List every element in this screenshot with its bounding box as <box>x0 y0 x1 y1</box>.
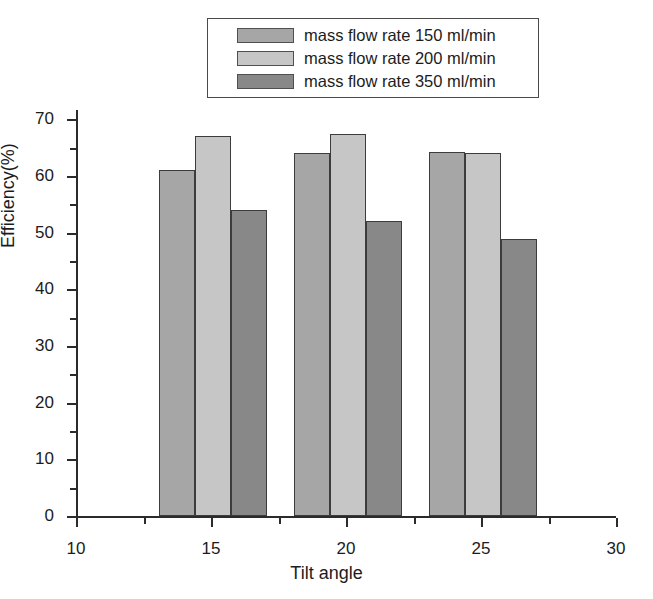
bar <box>159 170 195 516</box>
y-tick: 70 <box>67 119 76 121</box>
x-tick: 25 <box>481 518 483 527</box>
bar <box>195 136 231 516</box>
y-tick-minor <box>70 148 76 150</box>
bar <box>330 134 366 516</box>
bar <box>294 153 330 516</box>
legend-item: mass flow rate 350 ml/min <box>208 70 538 93</box>
y-tick-minor <box>70 488 76 490</box>
y-tick: 40 <box>67 289 76 291</box>
y-tick: 30 <box>67 346 76 348</box>
y-tick-label: 30 <box>35 336 54 356</box>
legend-swatch-icon <box>237 28 294 43</box>
y-tick: 60 <box>67 176 76 178</box>
y-tick-label: 50 <box>35 223 54 243</box>
x-tick-minor <box>549 518 551 524</box>
y-tick-minor <box>70 204 76 206</box>
bar <box>501 239 537 516</box>
y-tick-label: 70 <box>35 109 54 129</box>
x-tick-label: 30 <box>607 539 626 559</box>
bar <box>231 210 267 516</box>
x-tick: 15 <box>211 518 213 527</box>
y-tick-minor <box>70 318 76 320</box>
x-tick: 20 <box>346 518 348 527</box>
y-tick-minor <box>70 374 76 376</box>
y-tick-minor <box>70 261 76 263</box>
y-tick: 0 <box>67 516 76 518</box>
bar <box>465 153 501 516</box>
x-tick-label: 15 <box>202 539 221 559</box>
y-tick-label: 60 <box>35 166 54 186</box>
y-tick-label: 10 <box>35 449 54 469</box>
y-tick-label: 20 <box>35 393 54 413</box>
y-tick-minor <box>70 431 76 433</box>
y-tick: 10 <box>67 459 76 461</box>
x-tick: 30 <box>616 518 618 527</box>
x-tick-label: 20 <box>337 539 356 559</box>
legend-item: mass flow rate 150 ml/min <box>208 24 538 47</box>
bar-chart-figure: mass flow rate 150 ml/min mass flow rate… <box>0 0 653 599</box>
x-tick-minor <box>414 518 416 524</box>
legend-swatch-icon <box>237 51 294 66</box>
chart-legend: mass flow rate 150 ml/min mass flow rate… <box>207 18 539 98</box>
bar <box>366 221 402 516</box>
y-tick: 20 <box>67 403 76 405</box>
plot-area: 010203040506070 1015202530 <box>76 110 616 518</box>
bars-layer <box>78 110 616 516</box>
x-tick-minor <box>279 518 281 524</box>
y-tick: 50 <box>67 233 76 235</box>
legend-item-label: mass flow rate 150 ml/min <box>304 27 496 44</box>
x-tick-label: 10 <box>67 539 86 559</box>
bar <box>429 152 465 516</box>
y-tick-label: 40 <box>35 279 54 299</box>
legend-swatch-icon <box>237 74 294 89</box>
legend-item: mass flow rate 200 ml/min <box>208 47 538 70</box>
legend-item-label: mass flow rate 200 ml/min <box>304 50 496 67</box>
x-tick-label: 25 <box>472 539 491 559</box>
x-tick-minor <box>144 518 146 524</box>
legend-item-label: mass flow rate 350 ml/min <box>304 73 496 90</box>
y-tick-label: 0 <box>45 506 54 526</box>
x-axis-title: Tilt angle <box>0 563 653 584</box>
x-tick: 10 <box>76 518 78 527</box>
cropped-caption <box>38 589 598 599</box>
y-axis-title: Efficiency(%) <box>0 143 19 248</box>
